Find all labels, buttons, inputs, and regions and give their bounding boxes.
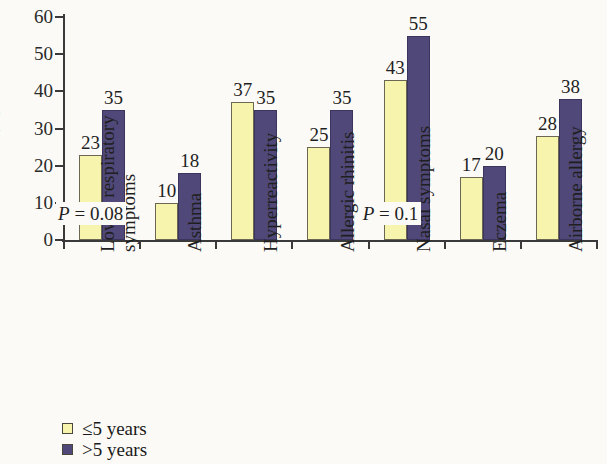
x-axis-label: Nasal symptoms <box>413 126 434 252</box>
y-axis-tick-label: 10 <box>34 193 53 212</box>
bar <box>536 136 559 240</box>
legend-swatch <box>62 423 73 434</box>
y-axis-tick <box>55 53 63 55</box>
x-axis-label: Allergic rhinitis <box>337 132 358 253</box>
y-axis-title-text: (%) <box>0 92 1 152</box>
x-axis-label: Airborne allergy <box>565 126 586 252</box>
y-axis-tick <box>55 90 63 92</box>
legend-swatch <box>62 444 73 455</box>
y-axis-tick-label: 50 <box>34 44 53 63</box>
x-axis-label-line: symptoms <box>118 115 139 252</box>
x-axis-tick <box>596 240 598 249</box>
bar-chart: (%) 0102030405060 2335101837352535435517… <box>0 0 607 464</box>
bar-value-label: 35 <box>102 88 125 107</box>
bar <box>155 203 178 240</box>
y-axis-tick <box>55 239 63 241</box>
x-axis-label: Lower respiratorysymptoms <box>97 115 139 252</box>
p-symbol: P <box>58 203 70 224</box>
p-value-annotation: P = 0.1 <box>361 202 422 225</box>
x-axis-label: Eczema <box>489 192 510 252</box>
bar-value-label: 43 <box>384 58 407 77</box>
y-axis-tick <box>55 16 63 18</box>
legend-item: >5 years <box>62 439 147 460</box>
y-axis-tick-label: 20 <box>34 156 53 175</box>
legend-label: ≤5 years <box>82 419 147 438</box>
y-axis-tick-label: 60 <box>34 7 53 26</box>
p-value-annotation: P = 0.08 <box>56 202 126 225</box>
x-axis-label: Asthma <box>184 193 205 252</box>
x-axis-tick <box>291 240 293 249</box>
x-axis-tick <box>215 240 217 249</box>
bar-value-label: 10 <box>155 181 178 200</box>
x-axis-tick <box>444 240 446 249</box>
x-axis-tick <box>520 240 522 249</box>
bar <box>460 177 483 240</box>
y-axis-tick <box>55 128 63 130</box>
bar-value-label: 55 <box>407 14 430 33</box>
bar <box>231 102 254 240</box>
y-axis-tick-label: 30 <box>34 119 53 138</box>
legend-label: >5 years <box>82 440 147 459</box>
y-axis-tick-label: 0 <box>44 230 54 249</box>
bar-value-label: 17 <box>460 155 483 174</box>
legend: ≤5 years>5 years <box>62 418 147 460</box>
p-value-text: = 0.08 <box>70 203 123 224</box>
x-axis-tick <box>63 240 65 249</box>
x-axis-tick <box>139 240 141 249</box>
x-axis-label-line: Lower respiratory <box>97 115 118 252</box>
x-axis-line <box>62 240 596 242</box>
p-symbol: P <box>363 203 375 224</box>
bar-value-label: 18 <box>178 151 201 170</box>
bar-value-label: 28 <box>536 114 559 133</box>
bar-value-label: 35 <box>254 88 277 107</box>
bar-value-label: 38 <box>559 77 582 96</box>
bar-value-label: 20 <box>483 144 506 163</box>
y-axis-tick <box>55 165 63 167</box>
bar-value-label: 35 <box>330 88 353 107</box>
plot-area: 2335101837352535435517202838 <box>63 17 596 240</box>
bar <box>307 147 330 240</box>
x-axis-label: Hyperreactivity <box>260 133 281 252</box>
p-value-text: = 0.1 <box>374 203 418 224</box>
x-axis-tick <box>368 240 370 249</box>
bar-value-label: 25 <box>307 125 330 144</box>
legend-item: ≤5 years <box>62 418 147 439</box>
bar-value-label: 37 <box>231 80 254 99</box>
y-axis-tick-label: 40 <box>34 81 53 100</box>
